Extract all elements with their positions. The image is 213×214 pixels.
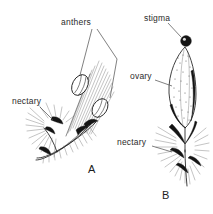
panel-letter-a: A: [88, 163, 96, 175]
illustration-canvas: nectary anthers A stigma: [0, 0, 213, 214]
botanical-figure: nectary anthers A stigma: [0, 0, 213, 214]
panel-letter-b: B: [162, 189, 169, 201]
stigma-head: [181, 36, 192, 47]
label-stigma: stigma: [144, 13, 170, 23]
label-nectary-b: nectary: [117, 137, 147, 147]
label-ovary: ovary: [130, 71, 152, 81]
label-nectary-a: nectary: [12, 96, 42, 106]
label-anthers: anthers: [61, 17, 91, 27]
